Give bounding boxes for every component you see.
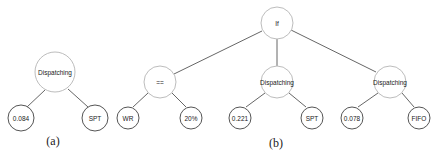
node-b-cond-label: == [156,79,164,86]
caption-b: (b) [269,136,283,150]
node-b-cond-left-label: WR [123,115,134,122]
node-b-else-left-label: 0.078 [344,115,361,122]
node-a-left: 0.084 [8,105,34,131]
node-b-cond-right: 20% [180,107,202,129]
node-a-right-label: SPT [89,115,102,122]
edge-b-cond-right [172,93,186,107]
node-b-root: If [261,7,293,39]
edge-b-root-cond [174,31,262,74]
node-b-cond: == [144,66,176,98]
node-b-then-right: SPT [301,107,323,129]
node-a-right: SPT [82,105,108,131]
edge-b-then-right [289,93,306,107]
edge-a-root-left [27,90,45,107]
node-b-root-label: If [275,20,279,27]
edge-b-else-left [358,93,378,107]
edge-b-root-else [291,30,376,72]
node-b-else-left: 0.078 [341,107,363,129]
node-b-cond-right-label: 20% [184,115,197,122]
edge-a-root-right [68,89,88,107]
edge-b-cond-left [133,93,148,107]
node-a-root-label: Dispatching [38,69,72,77]
node-b-then-right-label: SPT [306,115,319,122]
node-b-else-right-label: FIFO [412,115,427,122]
node-a-left-label: 0.084 [13,115,30,122]
tree-diagram: Dispatching 0.084 SPT (a) If == Dispatch… [0,0,443,157]
node-b-cond-left: WR [117,107,139,129]
node-a-root: Dispatching [35,52,75,92]
edge-b-else-right [402,93,414,107]
node-b-then-left-label: 0.221 [232,115,249,122]
node-b-else-right: FIFO [408,107,430,129]
node-b-then-label: Dispatching [260,79,294,87]
edge-b-then-left [246,93,265,107]
node-b-then-left: 0.221 [229,107,251,129]
node-b-else-label: Dispatching [373,79,407,87]
caption-a: (a) [46,134,59,148]
